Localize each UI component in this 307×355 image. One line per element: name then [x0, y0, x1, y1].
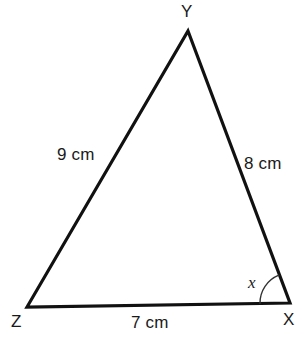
angle-label-unknown-x: x	[248, 274, 256, 291]
side-length-label-zx: 7 cm	[131, 314, 169, 331]
vertex-label-x: X	[283, 311, 294, 328]
triangle-diagram: Y Z X 9 cm 8 cm 7 cm x	[0, 0, 307, 355]
side-length-label-zy: 9 cm	[57, 146, 95, 163]
vertex-label-z: Z	[11, 313, 21, 330]
vertex-label-y: Y	[181, 3, 192, 20]
side-length-label-yx: 8 cm	[244, 155, 282, 172]
triangle-geometry-svg	[0, 0, 307, 355]
